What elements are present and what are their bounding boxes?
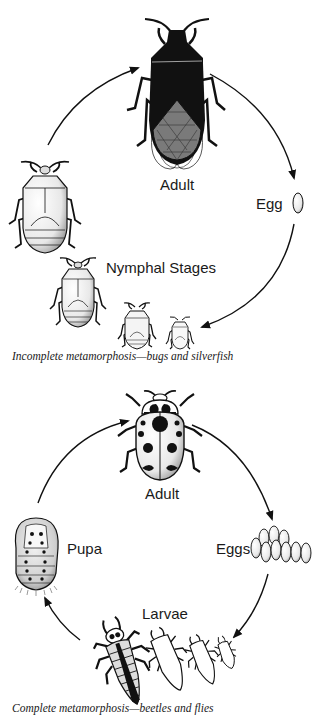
caption-incomplete-metamorphosis: Incomplete metamorphosis—bugs and silver…: [12, 351, 233, 363]
nymph-tiny-icon: [166, 317, 194, 349]
arrow-nymph-to-adult: [48, 68, 138, 145]
larva-large-icon: [83, 610, 164, 708]
arrow-pupa-to-adult: [38, 421, 128, 503]
stage-label-nymphal-stages: Nymphal Stages: [106, 260, 216, 275]
larva-small-icon: [178, 630, 227, 690]
pupa-icon: [15, 518, 58, 596]
complete-metamorphosis-diagram: [15, 391, 311, 708]
arrow-adult-to-eggs: [192, 425, 272, 519]
stage-label-larvae: Larvae: [142, 606, 188, 621]
incomplete-metamorphosis-diagram: [9, 19, 303, 349]
stage-label-adult-incomplete: Adult: [160, 177, 194, 192]
eggs-cluster-icon: [251, 526, 311, 563]
arrow-adult-to-egg: [210, 74, 294, 178]
nymph-medium-icon: [50, 258, 106, 327]
larva-medium-icon: [137, 621, 199, 697]
caption-complete-metamorphosis: Complete metamorphosis—beetles and flies: [12, 703, 214, 715]
nymph-small-icon: [118, 303, 156, 349]
arrow-larvae-to-pupa: [45, 598, 80, 640]
ladybug-adult-icon: [118, 391, 202, 480]
stage-label-egg: Egg: [256, 196, 283, 211]
nymph-large-icon: [9, 162, 81, 253]
stage-label-adult-complete: Adult: [145, 486, 179, 501]
arrow-eggs-to-larvae: [234, 574, 268, 637]
stage-label-eggs: Eggs: [216, 541, 250, 556]
stage-label-pupa: Pupa: [67, 541, 102, 556]
adult-bug-icon: [127, 19, 225, 169]
egg-icon: [293, 193, 303, 213]
